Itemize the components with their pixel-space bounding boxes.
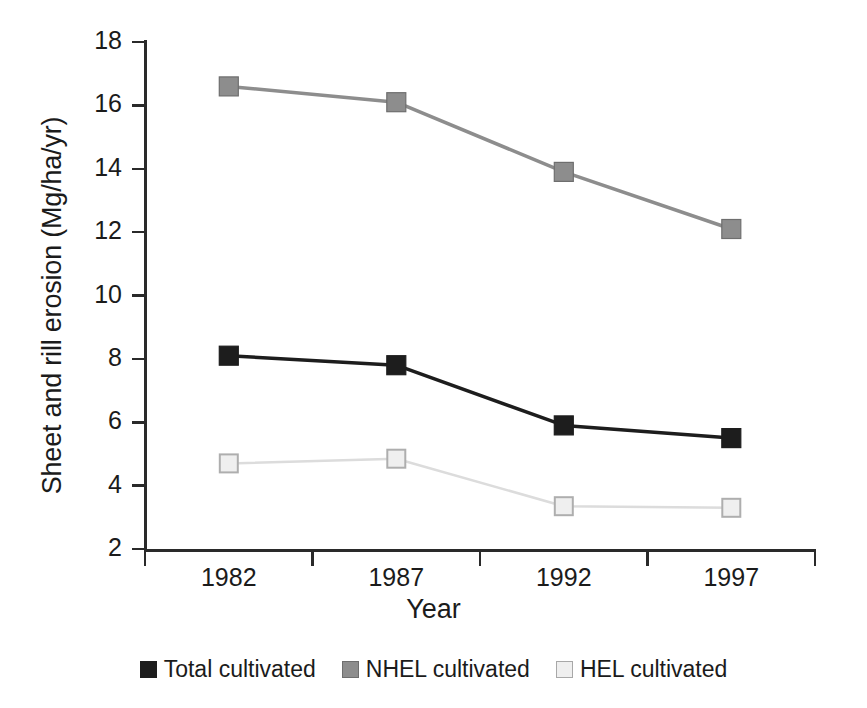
y-tick-mark bbox=[132, 421, 145, 424]
series-marker bbox=[554, 162, 573, 181]
legend-label: Total cultivated bbox=[164, 658, 316, 681]
y-tick-label: 4 bbox=[62, 470, 122, 499]
x-tick-label: 1987 bbox=[336, 563, 456, 592]
legend-item: NHEL cultivated bbox=[342, 658, 530, 681]
legend-item: Total cultivated bbox=[140, 658, 316, 681]
y-tick-label: 6 bbox=[62, 406, 122, 435]
x-tick-label: 1997 bbox=[671, 563, 791, 592]
y-tick-mark bbox=[132, 548, 145, 551]
x-tick-mark bbox=[144, 551, 147, 566]
legend-swatch-icon bbox=[556, 661, 573, 678]
y-tick-label: 12 bbox=[62, 216, 122, 245]
x-tick-mark bbox=[646, 551, 649, 566]
series-marker bbox=[554, 416, 573, 435]
series-line bbox=[229, 459, 732, 508]
chart-figure: Sheet and rill erosion (Mg/ha/yr) 181614… bbox=[0, 0, 867, 708]
y-tick-label: 8 bbox=[62, 343, 122, 372]
y-tick-mark bbox=[132, 41, 145, 44]
y-tick-mark bbox=[132, 294, 145, 297]
legend-label: NHEL cultivated bbox=[366, 658, 530, 681]
y-tick-label: 10 bbox=[62, 280, 122, 309]
series-marker bbox=[219, 346, 238, 365]
chart-legend: Total cultivatedNHEL cultivatedHEL culti… bbox=[0, 658, 867, 681]
series-marker bbox=[722, 429, 741, 448]
x-tick-mark bbox=[479, 551, 482, 566]
legend-label: HEL cultivated bbox=[580, 658, 727, 681]
y-tick-mark bbox=[132, 231, 145, 234]
x-axis-title: Year bbox=[0, 594, 867, 625]
legend-swatch-icon bbox=[342, 661, 359, 678]
legend-swatch-icon bbox=[140, 661, 157, 678]
y-tick-label: 2 bbox=[62, 533, 122, 562]
y-tick-mark bbox=[132, 484, 145, 487]
x-tick-label: 1992 bbox=[504, 563, 624, 592]
series-line bbox=[229, 86, 732, 229]
y-tick-mark bbox=[132, 168, 145, 171]
y-tick-label: 14 bbox=[62, 153, 122, 182]
x-tick-mark bbox=[814, 551, 817, 566]
series-marker bbox=[387, 93, 406, 112]
series-marker bbox=[387, 450, 405, 468]
x-tick-mark bbox=[311, 551, 314, 566]
y-tick-label: 18 bbox=[62, 26, 122, 55]
y-tick-mark bbox=[132, 358, 145, 361]
series-marker bbox=[387, 356, 406, 375]
series-marker bbox=[220, 454, 238, 472]
y-tick-mark bbox=[132, 104, 145, 107]
series-marker bbox=[722, 220, 741, 239]
x-tick-label: 1982 bbox=[169, 563, 289, 592]
series-marker bbox=[219, 77, 238, 96]
series-marker bbox=[555, 497, 573, 515]
legend-item: HEL cultivated bbox=[556, 658, 727, 681]
y-tick-label: 16 bbox=[62, 89, 122, 118]
series-marker bbox=[722, 499, 740, 517]
series-line bbox=[229, 356, 732, 438]
